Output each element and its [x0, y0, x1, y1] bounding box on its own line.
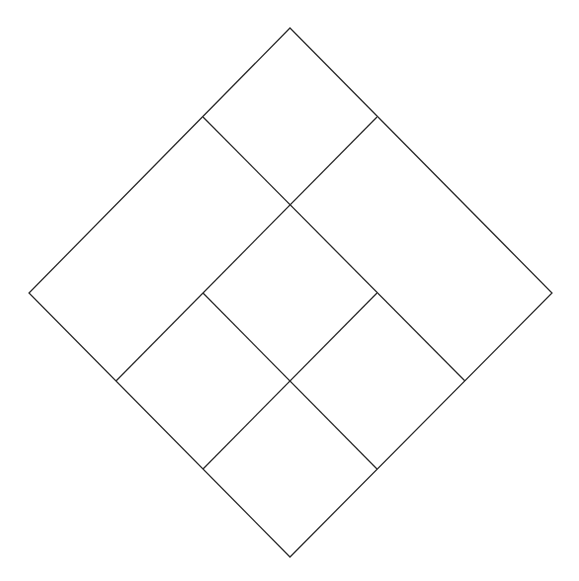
internal-dividers: [116, 117, 465, 469]
outer-diamond: [29, 28, 552, 557]
diamond-grid-diagram: [0, 0, 579, 581]
divider-line-1: [203, 117, 465, 381]
divider-line-2: [116, 117, 377, 381]
diagram-canvas: [0, 0, 579, 581]
